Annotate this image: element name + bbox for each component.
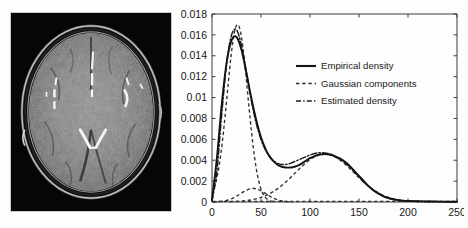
plot-frame xyxy=(212,14,457,202)
mri-image-panel xyxy=(10,12,172,212)
y-tick-label: 0.018 xyxy=(181,8,207,20)
x-tick-label: 50 xyxy=(255,206,267,218)
y-tick-label: 0.006 xyxy=(181,133,207,145)
chart-axes xyxy=(212,14,457,202)
x-tick-label: 150 xyxy=(350,206,368,218)
y-tick-label: 0.004 xyxy=(181,154,207,166)
legend-label: Empirical density xyxy=(321,60,394,71)
y-tick-label: 0 xyxy=(201,196,207,208)
chart-curves xyxy=(212,24,457,201)
chart-legend: Empirical densityGaussian componentsEsti… xyxy=(296,60,417,106)
y-tick-label: 0.008 xyxy=(181,112,207,124)
density-chart: 00.0020.0040.0060.0080.010.0120.0140.016… xyxy=(178,4,464,224)
estimated-density-curve xyxy=(212,29,457,202)
x-axis-ticks: 050100150200250 xyxy=(209,14,464,218)
y-tick-label: 0.01 xyxy=(187,91,208,103)
gaussian-component-curve xyxy=(213,188,292,201)
y-tick-label: 0.014 xyxy=(181,49,207,61)
y-tick-label: 0.002 xyxy=(181,175,207,187)
y-tick-label: 0.016 xyxy=(181,29,207,41)
legend-label: Estimated density xyxy=(321,95,397,106)
figure-root: 00.0020.0040.0060.0080.010.0120.0140.016… xyxy=(0,0,468,228)
legend-label: Gaussian components xyxy=(321,78,417,89)
x-tick-label: 0 xyxy=(209,206,215,218)
x-tick-label: 200 xyxy=(399,206,417,218)
density-plot-panel: 00.0020.0040.0060.0080.010.0120.0140.016… xyxy=(178,4,464,224)
x-tick-label: 250 xyxy=(448,206,464,218)
mri-image xyxy=(11,13,171,211)
y-tick-label: 0.012 xyxy=(181,70,207,82)
x-tick-label: 100 xyxy=(301,206,319,218)
